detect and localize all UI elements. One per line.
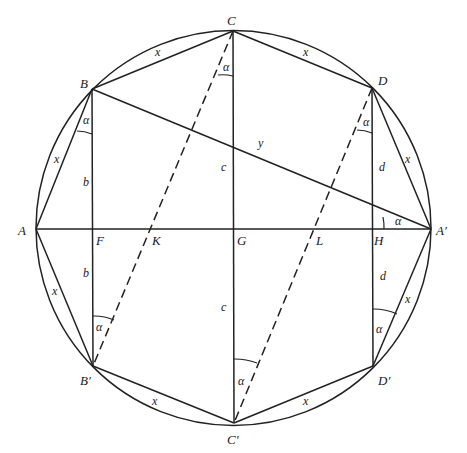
point-label-g: G	[237, 233, 247, 248]
angle-label-alpha: α	[223, 60, 230, 74]
point-labels: AA′BB′CC′DD′FKGLH	[17, 13, 447, 447]
angle-label-alpha: α	[376, 322, 383, 336]
segment-label: d	[379, 160, 386, 174]
segment-label: x	[404, 292, 411, 306]
angle-arc-b	[77, 131, 92, 134]
segment-d-prime-a-prime	[373, 229, 431, 366]
point-label-b: B	[80, 76, 88, 91]
point-label-l: L	[315, 233, 323, 248]
point-label-k: K	[151, 233, 162, 248]
point-label-b-prime: B′	[80, 373, 91, 388]
segment-label: x	[154, 45, 161, 59]
segment-label: y	[257, 136, 264, 150]
angle-label-alpha: α	[83, 113, 90, 127]
segment-labels: xxxxxxxxybbccdd	[51, 45, 411, 408]
point-label-a-prime: A′	[435, 223, 447, 238]
segment-label: x	[302, 45, 309, 59]
dashed-segment-d-c-prime	[234, 88, 372, 423]
dashed-segment-c-b-prime	[93, 31, 233, 366]
segment-label: b	[83, 175, 89, 189]
geometry-diagram: AA′BB′CC′DD′FKGLH xxxxxxxxybbccdd αααααα…	[0, 0, 467, 453]
segment-b-b-prime	[92, 89, 93, 366]
segment-b-c	[92, 31, 233, 89]
segment-label: c	[221, 160, 227, 174]
segment-a-b-prime	[36, 229, 93, 366]
angle-arc-c-prime	[234, 359, 257, 363]
angle-label-alpha: α	[96, 320, 103, 334]
segment-label: b	[83, 266, 89, 280]
angle-label-alpha: α	[238, 374, 245, 388]
point-label-c-prime: C′	[227, 432, 239, 447]
angle-label-alpha: α	[363, 115, 370, 129]
segment-c-c-prime	[233, 31, 234, 423]
segment-label: x	[53, 152, 60, 166]
angle-labels: ααααααα	[83, 60, 402, 388]
point-label-c: C	[227, 13, 236, 28]
segment-b-a-prime	[92, 89, 431, 229]
segment-a-b	[36, 89, 92, 229]
segment-label: c	[221, 300, 227, 314]
angle-arc-d-prime	[373, 309, 397, 314]
segment-label: x	[151, 394, 158, 408]
segment-b-prime-c-prime	[93, 366, 234, 423]
point-label-d: D	[377, 73, 388, 88]
segment-c-d	[233, 31, 372, 88]
angle-arc-c	[218, 75, 233, 76]
point-label-d-prime: D′	[377, 373, 390, 388]
angle-label-alpha: α	[395, 214, 402, 228]
point-label-h: H	[373, 233, 384, 248]
angle-arcs	[77, 75, 397, 363]
point-label-a: A	[17, 223, 26, 238]
point-label-f: F	[95, 233, 105, 248]
segment-label: x	[51, 284, 58, 298]
angle-arc-d	[357, 130, 372, 133]
segment-label: x	[404, 152, 411, 166]
segment-d-d-prime	[372, 88, 373, 366]
segment-label: d	[380, 269, 387, 283]
segment-label: x	[302, 394, 309, 408]
angle-arc-a-prime	[383, 217, 384, 229]
